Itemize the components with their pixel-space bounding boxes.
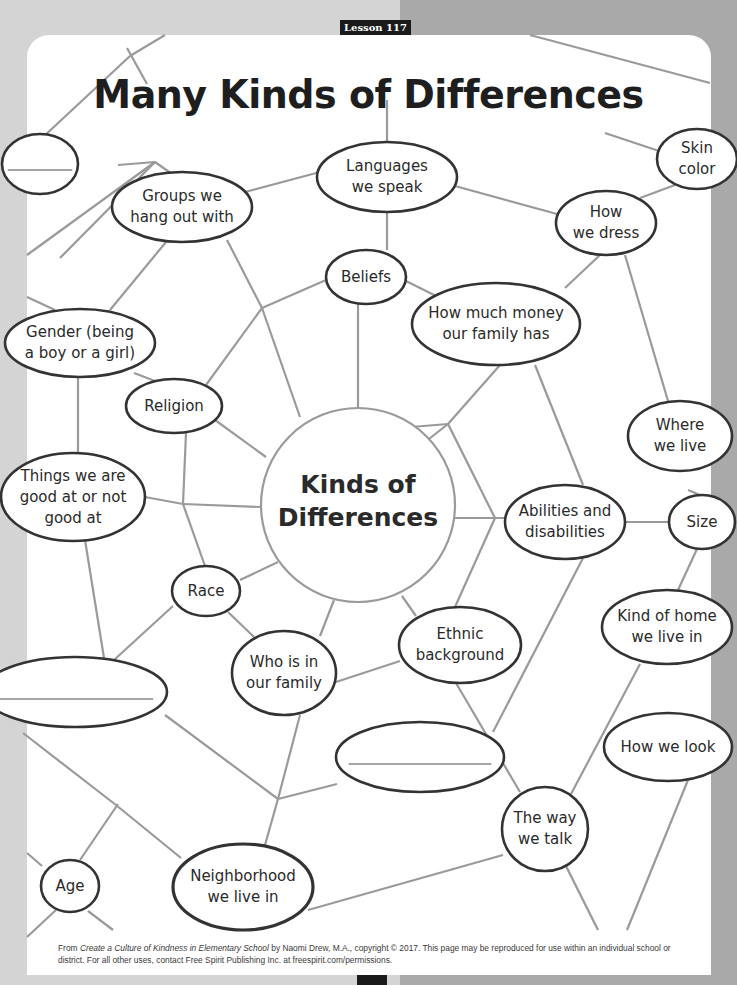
connector-line	[80, 804, 118, 860]
connector-line	[88, 911, 113, 930]
bubble-label-skin-color: Skin color	[657, 129, 737, 189]
connector-line	[27, 853, 42, 866]
bubble-label-religion: Religion	[126, 379, 222, 433]
connector-line	[625, 255, 668, 401]
connector-line	[114, 606, 173, 660]
connector-line	[278, 784, 337, 799]
bubble-label-kind-of-home: Kind of home we live in	[602, 590, 732, 664]
connector-line	[145, 497, 183, 504]
page-title: Many Kinds of Differences	[0, 71, 737, 117]
connector-line	[627, 780, 688, 930]
bubble-label-size: Size	[669, 495, 735, 549]
connector-line	[566, 866, 598, 930]
bubble-label-age: Age	[41, 860, 99, 912]
connector-line	[215, 420, 266, 457]
bubble-label-groups: Groups we hang out with	[112, 172, 252, 242]
center-label: Kinds of Differences	[261, 408, 455, 594]
connector-line	[130, 35, 165, 56]
connector-line	[183, 504, 261, 507]
connector-line	[118, 162, 155, 165]
connector-line	[116, 805, 181, 858]
bubble-label-family: Who is in our family	[232, 631, 336, 715]
connector-line	[262, 308, 300, 417]
connector-line	[165, 715, 278, 799]
bubble-label-how-we-look: How we look	[604, 713, 732, 781]
bubble-label-languages: Languages we speak	[317, 142, 457, 212]
bubble-label-how-we-dress: How we dress	[556, 191, 656, 255]
bubble-label-race: Race	[172, 566, 240, 616]
connector-line	[27, 910, 56, 937]
bubble-label-abilities: Abilities and disabilities	[505, 485, 625, 559]
connector-line	[455, 518, 495, 607]
connector-line	[227, 240, 262, 308]
bubble-blank-mid-left[interactable]	[0, 657, 167, 727]
connector-line	[265, 799, 278, 845]
connector-line	[448, 365, 500, 424]
bubble-label-ethnic: Ethnic background	[399, 607, 521, 683]
bubble-label-the-way-we-talk: The way we talk	[502, 787, 588, 871]
bubble-label-gender: Gender (being a boy or a girl)	[5, 309, 155, 377]
connector-line	[535, 365, 583, 485]
connector-line	[278, 715, 300, 799]
connector-line	[183, 504, 205, 566]
bubble-blank-mid-right[interactable]	[336, 722, 504, 792]
connector-line	[678, 549, 697, 590]
copyright-footer: From Create a Culture of Kindness in Ele…	[58, 942, 688, 966]
connector-line	[110, 242, 166, 310]
bubble-blank-top-left[interactable]	[2, 134, 78, 194]
footer-prefix: From	[58, 943, 80, 953]
connector-line	[85, 540, 104, 658]
connector-line	[455, 186, 557, 214]
bubble-label-money: How much money our family has	[412, 283, 580, 365]
bubble-label-good-at: Things we are good at or not good at	[1, 453, 145, 541]
bubble-label-where-we-live: Where we live	[628, 401, 732, 471]
connector-line	[183, 433, 186, 504]
connector-line	[206, 308, 262, 385]
footer-book-title: Create a Culture of Kindness in Elementa…	[80, 943, 269, 953]
connector-line	[23, 733, 116, 805]
connector-line	[245, 172, 320, 192]
connector-line	[262, 280, 326, 308]
connector-line	[336, 661, 400, 682]
bubble-label-neighborhood: Neighborhood we live in	[173, 844, 313, 930]
bubble-label-beliefs: Beliefs	[326, 250, 406, 304]
connector-line	[308, 855, 503, 910]
